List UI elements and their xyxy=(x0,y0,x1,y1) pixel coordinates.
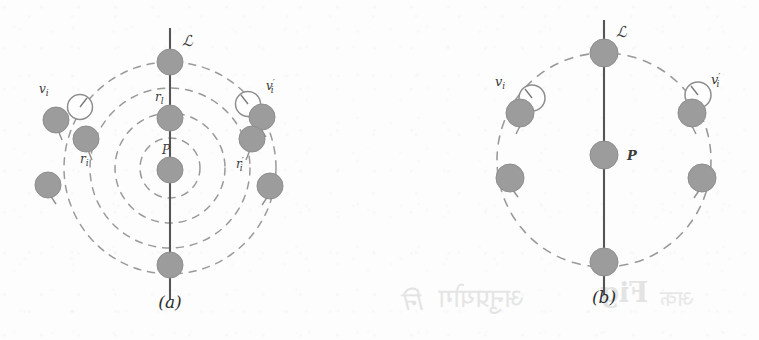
left-node-1 xyxy=(506,99,534,127)
figure-root: नि अनुप्रयोग Fig अक xyxy=(0,0,759,340)
clock-marker-left xyxy=(68,95,93,120)
left-node-1 xyxy=(43,107,69,133)
left-node-2 xyxy=(496,164,524,192)
panel-b: ℒ P vi v′i (b) xyxy=(380,0,759,340)
right-node-2 xyxy=(688,164,716,192)
label-axis-script-l-b: ℒ xyxy=(616,23,628,41)
axis-node-center-p xyxy=(590,141,618,169)
label-v-i-a: vi xyxy=(39,82,49,98)
axis-node-center-p xyxy=(157,157,183,183)
left-node-3 xyxy=(35,172,61,198)
label-axis-script-l-a: ℒ xyxy=(182,32,194,50)
caption-panel-a: (a) xyxy=(158,292,181,312)
right-node-3 xyxy=(257,173,283,199)
right-node-1 xyxy=(678,99,706,127)
label-v-i-prime-b: v′i xyxy=(711,72,720,89)
axis-node-top xyxy=(157,49,183,75)
label-p-a: P xyxy=(161,143,171,157)
label-r-i-prime-a: r′i xyxy=(236,156,244,173)
axis-node-bottom xyxy=(590,248,618,276)
left-node-2 xyxy=(73,126,99,152)
right-node-2 xyxy=(239,126,265,152)
label-p-b: P xyxy=(626,148,638,163)
panel-a: ℒ rl P vi ri v′i r′i (a) xyxy=(0,0,380,340)
label-v-i-prime-a: v′i xyxy=(266,78,275,95)
caption-panel-b: (b) xyxy=(592,287,616,307)
label-r-i-a: ri xyxy=(80,152,89,168)
axis-node-top xyxy=(590,39,618,67)
left-nodes-b xyxy=(496,99,534,192)
label-r-l-a: rl xyxy=(155,90,164,106)
axis-node-r-l xyxy=(157,105,183,131)
right-nodes-a xyxy=(239,104,283,199)
axis-node-bottom xyxy=(157,252,183,278)
label-v-i-b: vi xyxy=(495,74,505,91)
